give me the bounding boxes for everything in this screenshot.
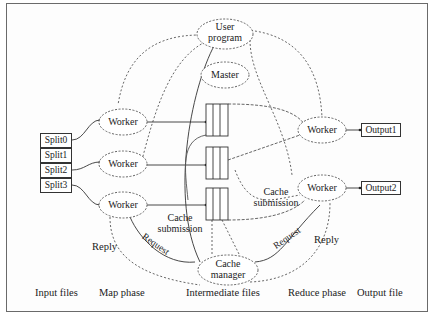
edge-user-to-worker1 (118, 35, 200, 105)
cache-submission-left-label: Cache submission (150, 213, 210, 234)
user-line-1: User (197, 22, 253, 33)
intermediate-file-2 (206, 147, 228, 179)
edge-split2-worker2 (72, 162, 100, 170)
cache-manager-label: Cache manager (198, 259, 258, 280)
phase-intermediate-files: Intermediate files (186, 288, 260, 299)
user-line-2: program (197, 33, 253, 44)
split-2: Split2 (40, 163, 72, 178)
split-1: Split1 (40, 148, 72, 163)
cache-submission-right-label: Cache submission (246, 187, 306, 208)
edge-split0-worker1 (72, 120, 100, 140)
cache-sub-left-2: submission (150, 224, 210, 235)
edge-inter2-reduce1 (228, 135, 300, 160)
reply-right-label: Reply (314, 235, 339, 246)
edge-inter1-reduce2 (186, 135, 206, 200)
edge-inter-cache-2 (222, 220, 240, 256)
cache-sub-right-2: submission (246, 198, 306, 209)
edge-user-to-worker2 (142, 42, 205, 160)
phase-map: Map phase (99, 288, 145, 299)
phase-output-file: Output file (357, 288, 403, 299)
worker-map-2-label: Worker (99, 159, 147, 170)
output-1: Output1 (361, 123, 401, 137)
edge-user-to-reduce1 (247, 30, 322, 118)
cache-line-2: manager (198, 270, 258, 281)
master-label: Master (201, 70, 249, 81)
edge-inter1-reduce1 (228, 104, 305, 125)
worker-map-1-label: Worker (99, 117, 147, 128)
split-3: Split3 (40, 178, 72, 193)
edge-split3-worker3 (72, 185, 100, 205)
cache-sub-right-1: Cache (246, 187, 306, 198)
reply-left-label: Reply (92, 242, 117, 253)
worker-reduce-1-label: Worker (298, 125, 346, 136)
intermediate-file-1 (206, 104, 228, 136)
cache-sub-left-1: Cache (150, 213, 210, 224)
worker-map-3-label: Worker (99, 200, 147, 211)
user-program-label: User program (197, 22, 253, 43)
cache-line-1: Cache (198, 259, 258, 270)
split-0: Split0 (40, 133, 72, 148)
phase-input-files: Input files (35, 288, 78, 299)
phase-reduce: Reduce phase (288, 288, 346, 299)
output-2: Output2 (361, 181, 401, 195)
